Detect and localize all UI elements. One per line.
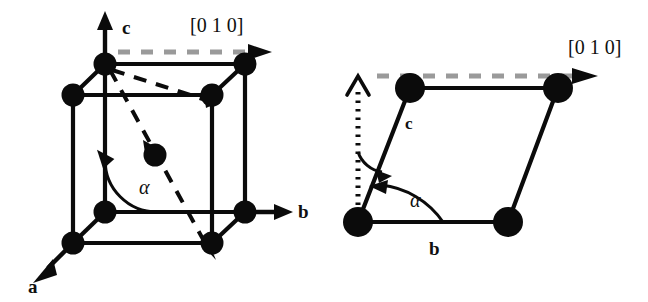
angle-alpha-arc-right [369,180,443,222]
axis-label-a-left: a [28,276,38,297]
atom-corner [343,207,373,237]
atom-corner [201,84,224,107]
atom-corner [493,207,523,237]
axis-c-arrowhead-left [97,11,113,30]
atom-corner [234,201,257,224]
axis-label-c-right: c [405,114,413,133]
cell-edge-right-oblique-right-panel [508,88,558,222]
atom-corner [62,84,85,107]
right-panel-bc-projection: c b α [0 1 0] [343,36,621,259]
left-panel-monoclinic-cell: c b a α [0 1 0] [28,11,309,297]
axis-label-c-left: c [122,17,130,38]
direction-arrowhead-right [572,68,598,84]
atom-corner [395,73,425,103]
atom-corner [234,53,257,76]
angle-arc-upper-arrowhead-right [376,170,392,183]
atom-corner [201,232,224,255]
direction-label-left: [0 1 0] [190,14,243,36]
atom-corner [94,53,117,76]
axis-b-arrowhead-left [274,204,293,220]
atom-corner [62,232,85,255]
angle-label-alpha-left: α [139,176,150,198]
atom-body-centre [144,144,167,167]
atom-corner [543,73,573,103]
cell-edge-left-oblique-right-panel [358,88,410,222]
atom-corner [94,201,117,224]
axis-label-b-right: b [429,238,440,259]
angle-label-alpha-right: α [410,189,421,211]
axis-label-b-left: b [298,201,309,222]
direction-label-right: [0 1 0] [568,36,621,58]
crystal-lattice-figure: c b a α [0 1 0] [0,0,648,302]
figure-canvas: c b a α [0 1 0] [0,0,648,302]
